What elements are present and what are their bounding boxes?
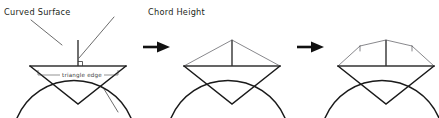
leader-curved-surface xyxy=(31,20,62,45)
arrow-stage2-to-stage3 xyxy=(297,42,324,53)
chord-height-label: Chord Height xyxy=(148,7,206,17)
triangle-v-shape-3 xyxy=(338,66,434,104)
stage-1-group: triangle edge xyxy=(17,17,131,118)
stage-3-group xyxy=(325,40,439,118)
arrow-stage1-to-stage2 xyxy=(143,42,170,53)
curved-surface-arc-2 xyxy=(171,80,285,118)
sub-chord-3-b xyxy=(360,40,386,46)
sub-chord-2-left xyxy=(184,40,232,66)
sub-chord-3-a xyxy=(338,46,360,66)
sub-chord-2-right xyxy=(232,40,280,66)
curved-surface-arc-3 xyxy=(325,80,439,118)
leader-chord-height xyxy=(79,17,114,58)
sub-chord-3-d xyxy=(412,46,434,66)
curved-surface-label: Curved Surface xyxy=(4,7,71,17)
sub-chord-3-c xyxy=(386,40,412,46)
curved-surface-arc-1 xyxy=(17,80,131,118)
diagram-canvas: triangle edge Curved Surface Chord Heigh… xyxy=(0,0,439,118)
stage-2-group xyxy=(171,40,285,118)
curved-surface-triangulation-diagram: triangle edge Curved Surface Chord Heigh… xyxy=(0,0,439,118)
triangle-edge-label: triangle edge xyxy=(62,72,102,79)
triangle-v-shape-2 xyxy=(184,66,280,104)
